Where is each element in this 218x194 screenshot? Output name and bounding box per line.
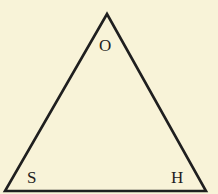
triangle-diagram: O S H [0, 0, 218, 194]
vertex-label-bottom-left: S [27, 168, 36, 187]
diagram-canvas: O S H [0, 0, 218, 194]
vertex-label-bottom-right: H [171, 168, 183, 187]
vertex-label-top: O [99, 36, 111, 55]
